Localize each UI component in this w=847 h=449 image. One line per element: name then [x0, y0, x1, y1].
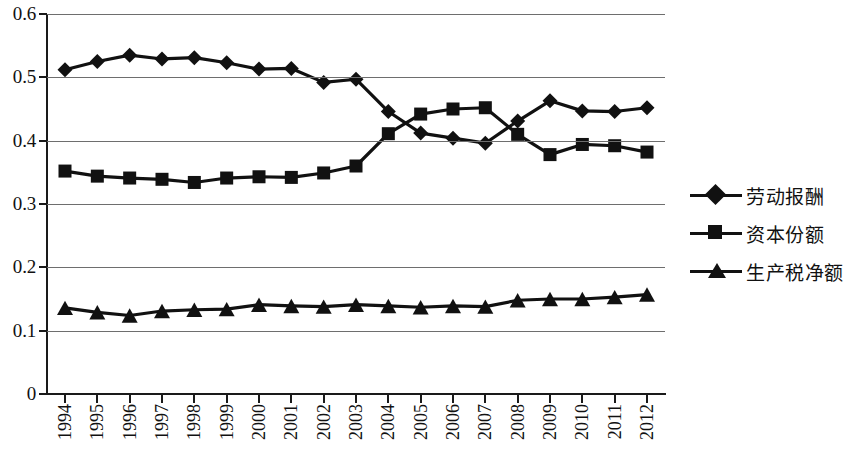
x-axis-tick-label: 1997: [153, 404, 171, 440]
data-point-square: [544, 148, 557, 161]
data-point-square: [414, 108, 427, 121]
triangle-marker-icon: [690, 260, 742, 282]
series-line: [65, 55, 647, 143]
x-axis-tick: [64, 395, 66, 403]
y-axis-tick: [39, 393, 47, 395]
x-axis-tick: [614, 395, 616, 403]
x-axis-tick-label: 2011: [606, 404, 624, 439]
data-point-diamond: [575, 103, 590, 118]
x-axis-tick-label: 2007: [476, 404, 494, 440]
series-triangle: [57, 287, 655, 322]
legend-label-capital: 资本份额: [746, 220, 824, 247]
x-axis-tick: [581, 395, 583, 403]
y-axis-tick-label: 0.4: [0, 131, 36, 150]
x-axis-tick-label: 2002: [315, 404, 333, 440]
y-axis-tick: [39, 13, 47, 15]
data-point-square: [156, 173, 169, 186]
x-axis-tick: [484, 395, 486, 403]
gridline: [47, 14, 665, 15]
x-axis-tick-label: 2010: [573, 404, 591, 440]
chart-plot-area: 0.60.50.40.30.20.10 19941995199619971998…: [0, 0, 680, 449]
x-axis-tick: [161, 395, 163, 403]
data-point-square: [641, 146, 654, 159]
x-axis-tick-label: 2005: [412, 404, 430, 440]
data-point-diamond: [607, 104, 622, 119]
y-axis-tick: [39, 330, 47, 332]
x-axis-tick-label: 2003: [347, 404, 365, 440]
y-axis-tick-label: 0.3: [0, 194, 36, 213]
x-axis-tick-label: 2008: [509, 404, 527, 440]
x-axis-tick: [420, 395, 422, 403]
series-diamond: [58, 48, 655, 151]
legend-label-labor: 劳动报酬: [746, 182, 824, 209]
x-axis-tick-label: 2006: [444, 404, 462, 440]
y-axis-tick: [39, 203, 47, 205]
legend-item-labor: 劳动报酬: [690, 176, 847, 214]
x-axis-tick-label: 2004: [379, 404, 397, 440]
x-axis-tick-label: 2009: [541, 404, 559, 440]
data-point-square: [285, 171, 298, 184]
y-axis-tick: [39, 266, 47, 268]
x-axis-tick-label: 1999: [218, 404, 236, 440]
data-point-diamond: [252, 62, 267, 77]
x-axis-tick: [226, 395, 228, 403]
x-axis-tick-label: 1998: [185, 404, 203, 440]
data-point-square: [220, 172, 233, 185]
data-point-diamond: [155, 51, 170, 66]
data-point-diamond: [187, 50, 202, 65]
x-axis-tick-label: 1996: [121, 404, 139, 440]
gridline: [47, 141, 665, 142]
x-axis-tick: [290, 395, 292, 403]
legend-item-tax: 生产税净额: [690, 252, 847, 290]
x-axis-tick: [258, 395, 260, 403]
y-axis-tick-label: 0: [0, 384, 36, 403]
x-axis-tick: [323, 395, 325, 403]
x-axis-tick-label: 2000: [250, 404, 268, 440]
y-axis-tick-label: 0.2: [0, 257, 36, 276]
y-axis-tick-label: 0.6: [0, 4, 36, 23]
legend-item-capital: 资本份额: [690, 214, 847, 252]
data-point-diamond: [90, 54, 105, 69]
chart-figure: 0.60.50.40.30.20.10 19941995199619971998…: [0, 0, 847, 449]
x-axis-tick: [387, 395, 389, 403]
legend-label-tax: 生产税净额: [746, 258, 844, 285]
data-point-diamond: [640, 100, 655, 115]
x-axis-tick: [193, 395, 195, 403]
x-axis-tick: [646, 395, 648, 403]
data-point-square: [479, 101, 492, 114]
series-square: [59, 101, 654, 189]
data-point-square: [188, 176, 201, 189]
x-axis-tick-label: 1994: [56, 404, 74, 440]
y-axis-tick: [39, 140, 47, 142]
diamond-marker-icon: [690, 184, 742, 206]
square-marker-icon: [690, 222, 742, 244]
x-axis-tick: [96, 395, 98, 403]
data-point-square: [382, 127, 395, 140]
data-point-square: [317, 166, 330, 179]
data-point-diamond: [543, 93, 558, 108]
x-axis-tick-label: 2001: [282, 404, 300, 440]
data-point-square: [350, 160, 363, 173]
data-point-square: [253, 170, 266, 183]
gridline: [47, 331, 665, 332]
data-point-diamond: [284, 61, 299, 76]
x-axis-tick-label: 1995: [88, 404, 106, 440]
x-axis-tick: [452, 395, 454, 403]
x-axis-tick: [517, 395, 519, 403]
y-axis-labels: 0.60.50.40.30.20.10: [0, 0, 36, 449]
y-axis-tick-label: 0.1: [0, 321, 36, 340]
data-point-square: [91, 170, 104, 183]
x-axis-tick: [129, 395, 131, 403]
y-axis-tick: [39, 76, 47, 78]
data-point-square: [59, 165, 72, 178]
data-point-square: [123, 172, 136, 185]
data-point-square: [511, 128, 524, 141]
data-point-diamond: [122, 48, 137, 63]
data-point-diamond: [58, 62, 73, 77]
x-axis-tick: [549, 395, 551, 403]
gridline: [47, 77, 665, 78]
data-point-square: [447, 103, 460, 116]
y-axis-tick-label: 0.5: [0, 67, 36, 86]
gridline: [47, 267, 665, 268]
x-axis-tick: [355, 395, 357, 403]
